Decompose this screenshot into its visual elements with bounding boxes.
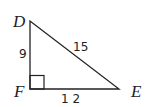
side-de-label: 15 <box>73 40 88 54</box>
vertex-d-label: D <box>12 12 26 31</box>
vertex-f-label: F <box>13 82 25 101</box>
side-df-label: 9 <box>19 47 27 61</box>
side-fe-label: 1 2 <box>61 92 80 106</box>
vertex-e-label: E <box>130 82 142 101</box>
right-angle-marker <box>30 76 44 90</box>
triangle-diagram: D F E 9 15 1 2 <box>0 0 147 107</box>
triangle-def <box>30 21 119 89</box>
